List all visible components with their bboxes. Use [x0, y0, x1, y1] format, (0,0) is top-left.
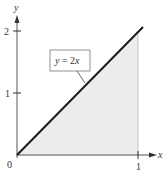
callout-leader	[77, 71, 85, 83]
y-tick-label-1: 1	[5, 88, 10, 99]
y-axis-arrow-icon	[15, 15, 20, 23]
origin-label: 0	[7, 159, 12, 170]
x-axis-arrow-icon	[149, 153, 157, 158]
y-tick-label-2: 2	[4, 26, 9, 37]
callout-label: y = 2x	[54, 55, 80, 66]
chart-canvas: y = 2x y x 2 1 1 0	[0, 0, 164, 178]
y-axis-label: y	[13, 2, 19, 13]
x-tick-label-1: 1	[136, 161, 141, 172]
x-axis-label: x	[157, 149, 163, 160]
